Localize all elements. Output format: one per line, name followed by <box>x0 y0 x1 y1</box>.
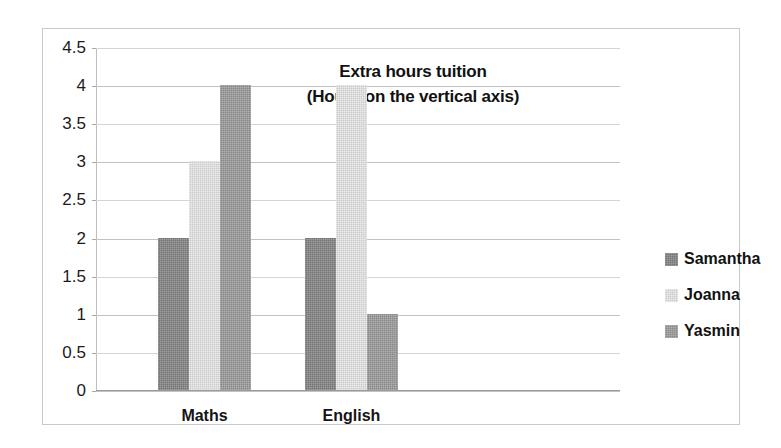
y-axis-tick <box>92 315 96 316</box>
bar-fill <box>220 85 251 390</box>
x-axis-label-english: English <box>323 407 381 425</box>
y-axis-tick-label: 3 <box>77 152 86 172</box>
bar-english-samantha <box>305 238 336 390</box>
bar-english-joanna <box>336 85 367 390</box>
y-axis-tick-label: 1 <box>77 305 86 325</box>
y-axis-tick <box>92 200 96 201</box>
legend-swatch-icon <box>665 289 678 302</box>
bar-maths-samantha <box>158 238 189 390</box>
gridline <box>96 48 620 49</box>
y-axis-tick <box>92 86 96 87</box>
y-axis-tick-label: 2 <box>77 229 86 249</box>
bar-fill <box>189 161 220 390</box>
legend-item-yasmin[interactable]: Yasmin <box>665 313 781 349</box>
y-axis-tick <box>92 162 96 163</box>
x-axis-label-maths: Maths <box>181 407 227 425</box>
y-axis-tick-label: 3.5 <box>62 114 86 134</box>
y-axis-tick <box>92 239 96 240</box>
legend-item-samantha[interactable]: Samantha <box>665 241 781 277</box>
y-axis-tick-label: 2.5 <box>62 190 86 210</box>
bar-maths-joanna <box>189 161 220 390</box>
y-axis-tick <box>92 353 96 354</box>
legend-swatch-icon <box>665 253 678 266</box>
y-axis-line <box>96 48 97 391</box>
legend-label: Yasmin <box>684 322 740 340</box>
chart-frame: Extra hours tuition (Hours on the vertic… <box>42 28 740 425</box>
bar-fill <box>158 238 189 390</box>
y-axis-tick-label: 0 <box>77 381 86 401</box>
y-axis-tick-label: 0.5 <box>62 343 86 363</box>
legend-item-joanna[interactable]: Joanna <box>665 277 781 313</box>
bar-fill <box>336 85 367 390</box>
bar-maths-yasmin <box>220 85 251 390</box>
y-axis-tick-label: 4.5 <box>62 38 86 58</box>
chart-legend: SamanthaJoannaYasmin <box>665 241 781 349</box>
legend-label: Joanna <box>684 286 740 304</box>
bar-fill <box>367 314 398 390</box>
gridline <box>96 391 620 392</box>
y-axis-tick <box>92 391 96 392</box>
y-axis-tick-label: 1.5 <box>62 267 86 287</box>
plot-area: 00.511.522.533.544.5 MathsEnglish <box>96 48 620 391</box>
y-axis-tick-label: 4 <box>77 76 86 96</box>
legend-label: Samantha <box>684 250 760 268</box>
y-axis-tick <box>92 277 96 278</box>
y-axis-tick <box>92 48 96 49</box>
y-axis-tick <box>92 124 96 125</box>
legend-swatch-icon <box>665 325 678 338</box>
bar-fill <box>305 238 336 390</box>
bar-english-yasmin <box>367 314 398 390</box>
